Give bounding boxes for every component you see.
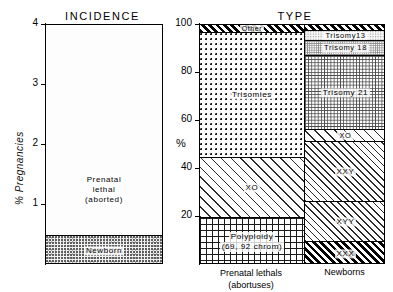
type-newborn-segment-trisomy21: Trisomy 21 xyxy=(305,56,385,129)
type-newborn-segment-trisomy13-label: Trisomy13 xyxy=(305,31,385,40)
type-category-label-newborns: Newborns xyxy=(304,267,385,277)
type-ytick-label-40: 40 xyxy=(160,161,192,172)
type-newborn-segment-trisomy13: Trisomy13 xyxy=(305,31,385,40)
type-prenatal-segment-other-label: Other xyxy=(200,25,304,32)
type-ytick-label-100: 100 xyxy=(160,17,192,28)
type-newborn-segment-xxy: XXY xyxy=(305,142,385,201)
type-ytick-label-20: 20 xyxy=(160,209,192,220)
type-prenatal-segment-trisomies-label: Trisomies xyxy=(200,90,304,99)
type-panel: TYPE % 100 80 60 40 20 Other Trisomies xyxy=(0,0,393,292)
type-newborn-segment-xxy-label: XXY xyxy=(305,167,385,176)
type-ytick-label-80: 80 xyxy=(160,65,192,76)
type-newborn-segment-trisomy21-label: Trisomy 21 xyxy=(305,88,385,97)
type-newborn-segment-xyy: XYY xyxy=(305,202,385,241)
type-panel-title: TYPE xyxy=(200,10,390,22)
type-prenatal-segment-polyploidy-label: Polyploidy (69, 92 chrom) xyxy=(200,232,304,252)
type-bars: Other Trisomies XO Polyploidy xyxy=(199,24,385,264)
type-prenatal-segment-trisomies: Trisomies xyxy=(200,33,304,157)
type-ytick-label-60: 60 xyxy=(160,113,192,124)
type-category-label-prenatal-lethals: Prenatal lethals (abortuses) xyxy=(199,267,303,291)
type-bar-newborns: Trisomy13 Trisomy 18 Trisomy 21 xyxy=(305,25,385,264)
type-newborn-segment-xo-label: XO xyxy=(305,131,385,140)
type-newborn-segment-xo: XO xyxy=(305,130,385,141)
type-newborn-segment-xyy-label: XYY xyxy=(305,217,385,226)
type-newborn-segment-trisomy18-label: Trisomy 18 xyxy=(305,44,385,53)
type-prenatal-segment-other: Other xyxy=(200,25,304,32)
type-prenatal-segment-polyploidy: Polyploidy (69, 92 chrom) xyxy=(200,218,304,264)
type-newborn-segment-xxx-label: XXX xyxy=(305,249,385,258)
type-prenatal-segment-xo: XO xyxy=(200,158,304,217)
type-bar-prenatal-lethals: Other Trisomies XO Polyploidy xyxy=(200,25,304,264)
type-y-axis-label: % xyxy=(176,137,186,149)
type-newborn-segment-xxx: XXX xyxy=(305,242,385,264)
type-prenatal-segment-xo-label: XO xyxy=(200,183,304,192)
type-newborn-segment-trisomy18: Trisomy 18 xyxy=(305,41,385,55)
